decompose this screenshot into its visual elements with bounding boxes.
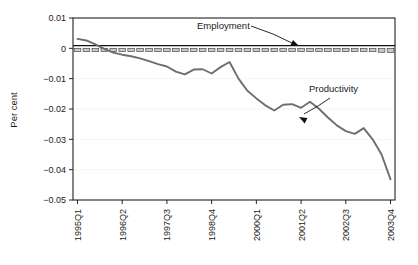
employment-bar [387,48,394,52]
annotation-leader-line [251,26,294,44]
y-tick-label: −0.03 [43,135,66,145]
x-tick-label: 1997Q3 [162,209,172,241]
y-tick-label: −0.02 [43,104,66,114]
x-tick-label: 1998Q4 [207,209,217,241]
employment-bar [208,48,215,51]
employment-bar [253,48,260,51]
employment-bar [351,48,358,51]
annotation-arrowhead [290,40,300,49]
employment-bar [342,48,349,51]
y-axis-ticks: 0.010−0.01−0.02−0.03−0.04−0.05 [43,13,73,205]
employment-bar [74,48,81,51]
employment-bar [128,48,135,51]
employment-bar [83,48,90,51]
employment-bar [217,48,224,51]
employment-bar [119,48,126,51]
x-axis-ticks: 1995Q11996Q21997Q31998Q42000Q12001Q22002… [73,200,396,241]
employment-bar [289,48,296,51]
annotation-label: Employment [197,20,250,31]
employment-bar [271,48,278,51]
chart-figure: 0.010−0.01−0.02−0.03−0.04−0.05 1995Q1199… [0,0,418,265]
employment-bar [155,48,162,51]
employment-bar [360,48,367,51]
chart-canvas: 0.010−0.01−0.02−0.03−0.04−0.05 1995Q1199… [0,0,418,265]
y-tick-label: −0.05 [43,195,66,205]
employment-bar [369,48,376,51]
employment-bar [181,48,188,51]
employment-bar [307,48,314,51]
x-tick-label: 2003Q4 [386,209,396,241]
x-tick-label: 2000Q1 [252,209,262,241]
y-tick-label: −0.01 [43,74,66,84]
employment-bar [316,48,323,51]
employment-bar [244,48,251,51]
employment-bar [137,48,144,51]
y-tick-label: −0.04 [43,165,66,175]
employment-bar [199,48,206,51]
employment-bar [92,48,99,51]
x-tick-label: 1996Q2 [118,209,128,241]
employment-bar [235,48,242,51]
employment-bar [280,48,287,51]
x-tick-label: 2001Q2 [297,209,307,241]
annotation-arrowhead [298,114,308,123]
employment-bar [173,48,180,51]
employment-bar [334,48,341,51]
y-axis-title: Per cent [8,92,19,128]
employment-bar [226,48,233,51]
employment-bar [164,48,171,51]
y-tick-label: 0 [61,44,66,54]
employment-bar [190,48,197,51]
y-tick-label: 0.01 [48,13,66,23]
employment-bar [325,48,332,51]
employment-bar [146,48,153,51]
employment-bar [262,48,269,51]
employment-bar-series [74,48,394,52]
chart-gridlines [73,48,395,169]
x-tick-label: 1995Q1 [73,209,83,241]
employment-bar [378,48,385,52]
x-tick-label: 2002Q3 [341,209,351,241]
annotation-label: Productivity [309,83,358,94]
employment-bar [298,48,305,51]
